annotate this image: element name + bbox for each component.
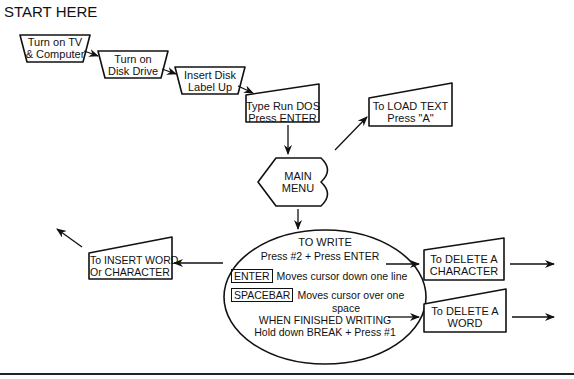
step-label: Insert Disk	[175, 69, 245, 81]
enter-desc: Moves cursor down one line	[277, 270, 408, 282]
finish-line-2: Hold down BREAK + Press #1	[240, 326, 410, 338]
start-here-title: START HERE	[4, 3, 97, 20]
insert-word-box: To INSERT WORD Or CHARACTER	[90, 254, 172, 278]
step-label: Turn on TV	[20, 36, 90, 48]
step-insert-disk: Insert Disk Label Up	[175, 69, 245, 93]
enter-key: ENTER	[231, 269, 273, 283]
main-menu-box: MAIN MENU	[270, 170, 326, 194]
finish-line-1: WHEN FINISHED WRITING	[250, 314, 400, 326]
step-label: Press ENTER	[246, 112, 319, 124]
step-label: Disk Drive	[98, 65, 168, 77]
delete-char-box: To DELETE A CHARACTER	[424, 253, 504, 277]
arrow-load	[335, 117, 367, 150]
load-text-box: To LOAD TEXT Press "A"	[369, 100, 452, 124]
step-turn-on-tv: Turn on TV & Computer	[20, 36, 90, 60]
step-label: Press "A"	[369, 112, 452, 124]
step-label: & Computer	[20, 48, 90, 60]
spacebar-row: SPACEBARMoves cursor over one	[231, 289, 404, 301]
branch-label: To DELETE A	[424, 305, 506, 317]
step-label: Turn on	[98, 53, 168, 65]
delete-word-box: To DELETE A WORD	[424, 305, 506, 329]
branch-label: To INSERT WORD	[90, 254, 172, 266]
spacebar-desc: Moves cursor over one	[297, 289, 404, 301]
branch-label: To DELETE A	[424, 253, 504, 265]
step-type-run-dos: Type Run DOS Press ENTER	[246, 100, 319, 124]
step-label: MENU	[270, 182, 326, 194]
spacebar-desc-cont: space	[316, 302, 376, 314]
branch-label: WORD	[424, 317, 506, 329]
write-title: TO WRITE	[265, 236, 385, 248]
step-label: To LOAD TEXT	[369, 100, 452, 112]
write-subtitle: Press #2 + Press ENTER	[245, 250, 395, 262]
arrow-insert-out	[57, 229, 82, 247]
step-label: Type Run DOS	[246, 100, 319, 112]
spacebar-key: SPACEBAR	[231, 288, 293, 302]
step-label: MAIN	[270, 170, 326, 182]
step-turn-on-disk: Turn on Disk Drive	[98, 53, 168, 77]
branch-label: Or CHARACTER	[90, 266, 172, 278]
enter-row: ENTERMoves cursor down one line	[231, 270, 407, 282]
step-label: Label Up	[175, 81, 245, 93]
branch-label: CHARACTER	[424, 265, 504, 277]
